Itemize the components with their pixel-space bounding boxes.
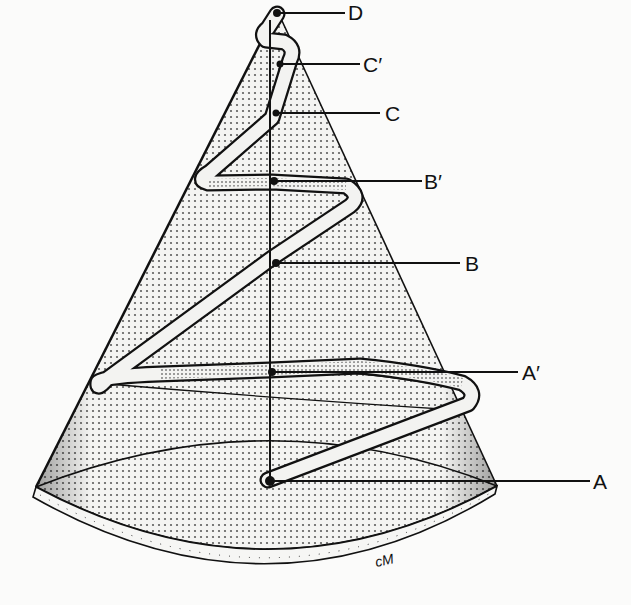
label-a-prime: A′ <box>522 361 540 384</box>
label-b-prime: B′ <box>424 170 442 193</box>
artist-signature: cM <box>374 550 396 570</box>
cone-body <box>36 10 497 549</box>
label-c: C <box>385 102 400 125</box>
label-c-prime: C′ <box>363 53 382 76</box>
label-d: D <box>348 1 363 24</box>
label-a: A <box>593 470 607 493</box>
label-b: B <box>465 252 479 275</box>
cone-helix-diagram: D C′ C B′ B A′ A cM <box>0 0 631 605</box>
